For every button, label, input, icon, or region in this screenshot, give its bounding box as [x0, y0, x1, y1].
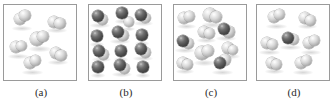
light-atom [305, 15, 316, 26]
light-atom [271, 59, 282, 70]
light-atom [267, 39, 278, 50]
panel-c: (c) [173, 0, 249, 109]
dark-atom [214, 57, 227, 70]
molecule-shadow [136, 73, 150, 78]
panel-box-d [256, 4, 330, 81]
dark-atom [116, 7, 127, 18]
light-atom [16, 41, 27, 52]
light-atom [182, 59, 192, 69]
panel-a: (a) [3, 0, 79, 109]
molecule-shadow [47, 28, 68, 33]
dark-atom [135, 9, 147, 21]
panel-box-b [88, 4, 162, 81]
molecule-shadow [280, 45, 301, 50]
panel-box-a [3, 4, 77, 81]
molecule-shadow [265, 69, 284, 74]
dark-atom [136, 29, 147, 40]
panel-label-c: (c) [173, 86, 249, 98]
dark-atom [137, 61, 148, 72]
molecule-shadow [22, 70, 43, 75]
molecule-shadow [194, 60, 215, 66]
molecule-shadow [212, 70, 233, 75]
light-atom [204, 28, 215, 39]
light-atom [228, 45, 238, 55]
light-atom [37, 31, 49, 43]
dark-atom [115, 45, 126, 56]
molecule-shadow [176, 69, 195, 74]
panel-box-c [173, 4, 247, 81]
panel-label-b: (b) [88, 86, 164, 98]
panel-d: (d) [256, 0, 332, 109]
molecule-shadow [29, 46, 51, 52]
molecule-shadow [293, 70, 313, 75]
dark-atom [93, 45, 105, 57]
molecule-shadow [177, 24, 197, 29]
molecule-shadow [259, 50, 279, 55]
panel-label-a: (a) [3, 86, 79, 98]
molecule-shadow [91, 73, 105, 78]
light-atom [210, 11, 222, 23]
light-atom [124, 17, 133, 26]
panel-b: (b) [88, 0, 164, 109]
molecule-shadow [266, 24, 286, 29]
light-atom [202, 45, 214, 57]
light-atom [55, 50, 66, 61]
molecular-diagram-figure: (a)(b)(c)(d) [0, 0, 333, 109]
dark-atom [92, 61, 103, 72]
light-atom [30, 55, 41, 66]
panel-label-d: (d) [256, 86, 332, 98]
molecule-shadow [197, 38, 217, 43]
light-atom [301, 55, 312, 66]
light-atom [184, 11, 195, 22]
light-atom [309, 35, 320, 46]
light-atom [19, 10, 30, 21]
molecule-shadow [12, 26, 32, 31]
molecule-shadow [301, 50, 321, 55]
light-atom [274, 9, 285, 20]
light-atom [54, 18, 65, 29]
dark-atom [91, 30, 102, 41]
